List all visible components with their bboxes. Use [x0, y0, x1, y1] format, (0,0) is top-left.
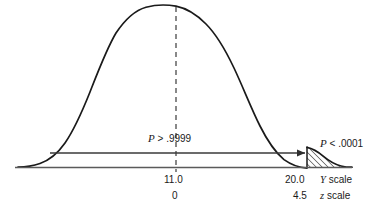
tick-label-center-y: 11.0: [164, 175, 183, 185]
axis-name-y-scale: Y scale: [320, 175, 352, 186]
probability-right-label: P < .0001: [320, 138, 363, 149]
normal-distribution-chart: [0, 0, 376, 220]
p-value-right: < .0001: [330, 138, 364, 149]
p-symbol-left: P: [148, 132, 155, 144]
chart-background: [0, 0, 376, 220]
z-symbol: z: [320, 190, 324, 201]
z-scale-word: scale: [327, 190, 350, 201]
axis-name-z-scale: z scale: [320, 191, 350, 202]
y-symbol: Y: [320, 174, 326, 185]
y-scale-word: scale: [329, 174, 352, 185]
probability-left-label: P > .9999: [148, 133, 191, 144]
p-symbol-right: P: [320, 137, 327, 149]
tick-label-cutoff-z: 4.5: [293, 191, 307, 201]
p-value-left: > .9999: [158, 133, 192, 144]
tick-label-center-z: 0: [172, 191, 178, 201]
tick-label-cutoff-y: 20.0: [285, 175, 304, 185]
